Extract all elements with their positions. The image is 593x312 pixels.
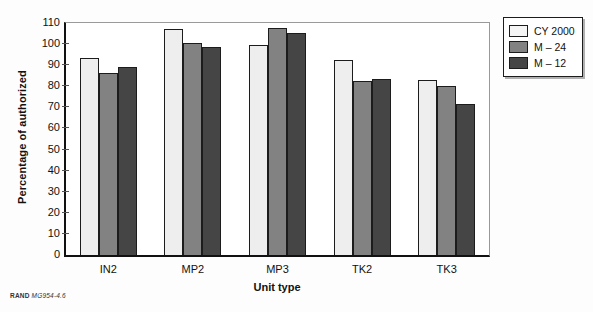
bar[interactable] (268, 28, 287, 255)
bar[interactable] (99, 73, 118, 255)
legend-label: M – 12 (534, 57, 566, 69)
bar-group: MP2 (151, 23, 236, 255)
x-tick-label: TK3 (404, 263, 489, 275)
bar-groups: IN2MP2MP3TK2TK3 (66, 23, 489, 255)
x-tick-label: MP3 (235, 263, 320, 275)
y-tick-label: 110 (32, 16, 60, 29)
y-tick-label: 30 (32, 185, 60, 198)
y-tick-label: 0 (32, 248, 60, 261)
legend-item[interactable]: M – 12 (509, 55, 575, 71)
y-tick-label: 10 (32, 227, 60, 240)
x-tick-label: TK2 (320, 263, 405, 275)
bar[interactable] (118, 67, 137, 255)
source-number: MG954-4.6 (32, 292, 66, 299)
y-tick-label: 40 (32, 164, 60, 177)
bar[interactable] (437, 86, 456, 255)
y-tick-label: 50 (32, 143, 60, 156)
bar[interactable] (249, 45, 268, 255)
legend-swatch (509, 25, 528, 37)
bar-group: TK3 (404, 23, 489, 255)
y-axis-title: Percentage of authorized (16, 7, 30, 267)
source-org: RAND (10, 292, 30, 299)
legend-swatch (509, 57, 528, 69)
bar-group: MP3 (235, 23, 320, 255)
bar[interactable] (334, 60, 353, 255)
legend-item[interactable]: M – 24 (509, 39, 575, 55)
bar[interactable] (287, 33, 306, 256)
x-axis-title: Unit type (64, 281, 490, 293)
y-tick-label: 100 (32, 37, 60, 50)
legend-swatch (509, 41, 528, 53)
bar[interactable] (183, 43, 202, 255)
bar[interactable] (164, 29, 183, 255)
legend: CY 2000M – 24M – 12 (503, 17, 583, 77)
x-tick-label: MP2 (151, 263, 236, 275)
x-tick-label: IN2 (66, 263, 151, 275)
legend-label: M – 24 (534, 41, 566, 53)
bar-group: TK2 (320, 23, 405, 255)
bar-group: IN2 (66, 23, 151, 255)
bar[interactable] (353, 81, 372, 255)
chart-figure: Percentage of authorized 010203040506070… (0, 0, 593, 312)
figure-source-note: RAND MG954-4.6 (10, 292, 66, 299)
y-tick-label: 90 (32, 58, 60, 71)
plot-area: 0102030405060708090100110 IN2MP2MP3TK2TK… (64, 22, 490, 257)
y-tick-label: 20 (32, 206, 60, 219)
bar[interactable] (80, 58, 99, 255)
legend-label: CY 2000 (534, 25, 575, 37)
y-tick-label: 80 (32, 79, 60, 92)
bar[interactable] (202, 47, 221, 255)
bar[interactable] (456, 104, 475, 255)
legend-item[interactable]: CY 2000 (509, 23, 575, 39)
y-tick-label: 70 (32, 100, 60, 113)
y-tick-label: 60 (32, 121, 60, 134)
bar[interactable] (418, 80, 437, 255)
bar[interactable] (372, 79, 391, 255)
